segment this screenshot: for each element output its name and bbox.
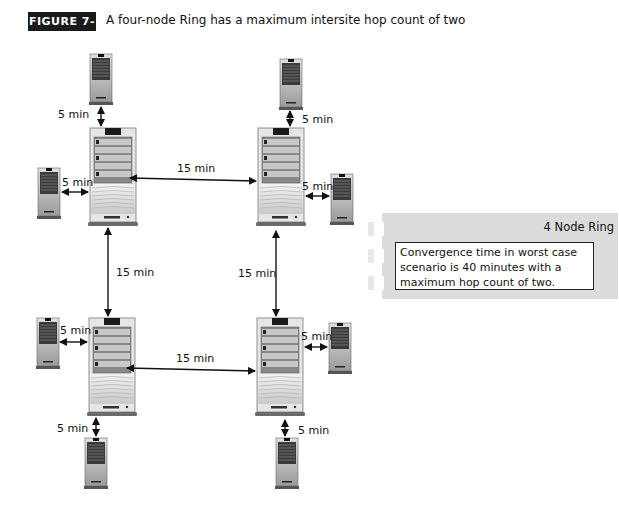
branch-tl-top-server-icon xyxy=(89,54,113,105)
branch-bl-left-server-icon xyxy=(36,318,60,369)
link-label-tr-right: 5 min xyxy=(302,180,333,193)
hub-top-left-server-icon xyxy=(88,128,138,226)
hub-bottom-right-server-icon xyxy=(255,318,305,416)
link-label-bl-left: 5 min xyxy=(60,324,91,337)
legend-panel: 4 Node Ring Convergence time in worst ca… xyxy=(368,213,618,299)
link-label-tl-tr: 15 min xyxy=(177,162,215,175)
link-label-tl-bl: 15 min xyxy=(116,266,154,279)
link-label-bl-br: 15 min xyxy=(176,352,214,365)
link-label-tl-left: 5 min xyxy=(62,176,93,189)
branch-bl-bottom-server-icon xyxy=(84,438,108,489)
branch-tl-left-server-icon xyxy=(37,168,61,219)
link-label-tl-top: 5 min xyxy=(58,108,89,121)
link-label-tr-br: 15 min xyxy=(238,267,276,280)
legend-description: Convergence time in worst case scenario … xyxy=(395,242,594,290)
link-label-br-right: 5 min xyxy=(301,330,332,343)
legend-tab xyxy=(368,249,384,263)
link-label-br-bottom: 5 min xyxy=(298,424,329,437)
hub-top-right-server-icon xyxy=(256,128,306,226)
branch-br-bottom-server-icon xyxy=(275,438,299,489)
legend-tab xyxy=(368,276,384,290)
branch-tr-right-server-icon xyxy=(330,174,354,225)
link-label-bl-bottom: 5 min xyxy=(57,422,88,435)
link-label-tr-top: 5 min xyxy=(302,113,333,126)
legend-tab xyxy=(368,222,384,236)
branch-tr-top-server-icon xyxy=(279,59,303,110)
hub-bottom-left-server-icon xyxy=(87,318,137,416)
legend-title: 4 Node Ring xyxy=(544,220,614,234)
